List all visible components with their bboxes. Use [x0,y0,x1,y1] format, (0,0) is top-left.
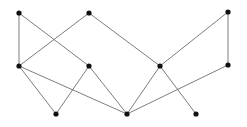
graph-node [225,62,230,67]
node-layer [16,9,230,116]
graph-edge [89,66,127,114]
graph-edge [127,66,160,114]
graph-edge [56,66,89,114]
graph-node [157,63,162,68]
graph-edge [89,13,160,66]
graph-edge [160,66,196,114]
graph-node [16,10,21,15]
graph-node [124,111,129,116]
graph-node [86,10,91,15]
graph-node [16,63,21,68]
graph-edge [160,12,228,66]
graph-figure [0,0,247,127]
graph-node [53,111,58,116]
graph-edge [19,66,56,114]
graph-edge [127,65,228,114]
graph-node [86,63,91,68]
edge-layer [19,12,228,114]
graph-node [193,111,198,116]
graph-node [225,9,230,14]
graph-canvas [0,0,247,127]
